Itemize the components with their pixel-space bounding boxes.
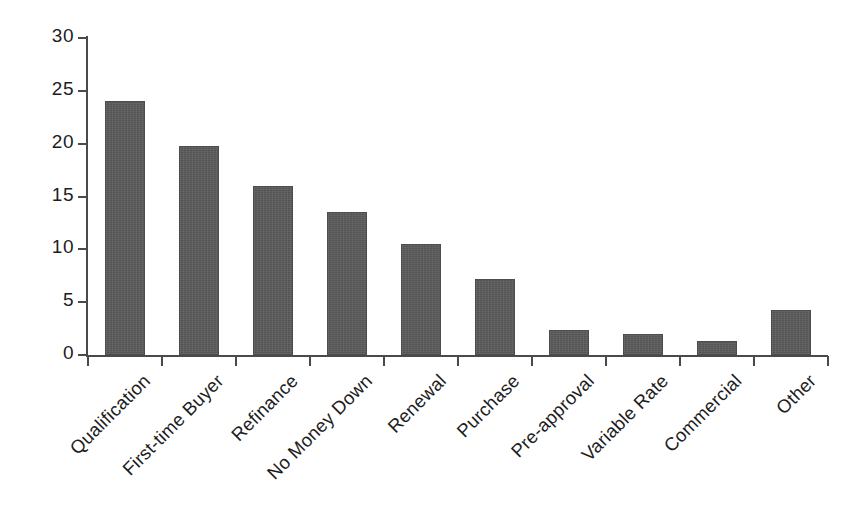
y-axis-tick	[78, 248, 87, 250]
y-axis-tick	[78, 196, 87, 198]
x-axis-tick	[235, 356, 237, 366]
x-axis-tick	[605, 356, 607, 366]
bar	[623, 334, 663, 355]
bar	[179, 146, 219, 355]
bar	[105, 101, 145, 355]
y-axis-tick	[78, 90, 87, 92]
y-axis-tick-label: 10	[34, 236, 74, 258]
y-axis-tick	[78, 143, 87, 145]
y-axis-tick-label: 5	[34, 289, 74, 311]
y-axis-tick-label: 15	[34, 184, 74, 206]
x-axis-label: Refinance	[227, 370, 303, 446]
y-axis-tick-label: 20	[34, 131, 74, 153]
x-axis-tick	[383, 356, 385, 366]
bar	[549, 330, 589, 355]
y-axis-tick	[78, 37, 87, 39]
bar	[771, 310, 811, 355]
x-axis-tick	[531, 356, 533, 366]
x-axis-label: Renewal	[383, 370, 450, 437]
y-axis-tick	[78, 354, 87, 356]
bar	[327, 212, 367, 355]
x-axis-tick	[753, 356, 755, 366]
x-axis-tick	[309, 356, 311, 366]
bar	[697, 341, 737, 355]
chart-page: 051015202530 QualificationFirst-time Buy…	[0, 0, 865, 523]
y-axis-tick-label: 0	[34, 342, 74, 364]
y-axis-tick-label: 25	[34, 78, 74, 100]
x-axis-label: Commercial	[660, 370, 747, 457]
y-axis-tick-label: 30	[34, 25, 74, 47]
x-axis-tick	[457, 356, 459, 366]
bar-chart: 051015202530 QualificationFirst-time Buy…	[0, 0, 865, 523]
x-axis-tick	[827, 356, 829, 366]
bar	[253, 186, 293, 355]
x-axis-tick	[87, 356, 89, 366]
y-axis-tick	[78, 301, 87, 303]
x-axis-tick	[679, 356, 681, 366]
x-axis-tick	[161, 356, 163, 366]
x-axis-label: Other	[772, 370, 821, 419]
x-axis-label: Purchase	[453, 370, 525, 442]
bar	[401, 244, 441, 355]
bar	[475, 279, 515, 355]
